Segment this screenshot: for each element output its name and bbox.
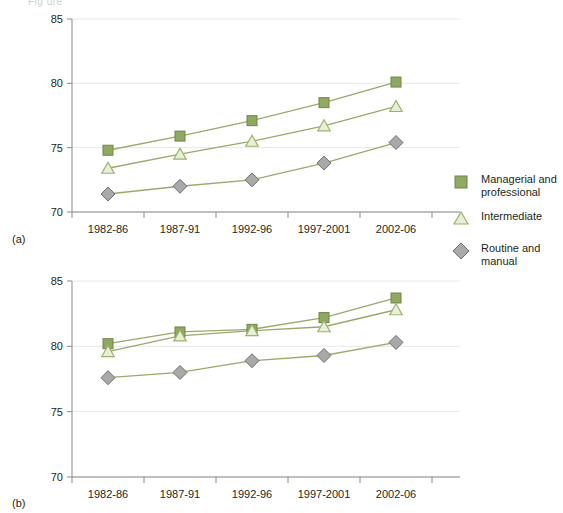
y-axis-tick-label: 80 [51, 340, 63, 352]
y-axis-tick-label: 80 [51, 77, 63, 89]
x-axis-tick-label: 1997-2001 [298, 488, 351, 500]
x-axis-tick-label: 1992-96 [232, 223, 272, 235]
diamond-marker-icon [245, 173, 259, 187]
y-axis-tick-label: 70 [51, 471, 63, 483]
square-marker-icon [103, 145, 113, 155]
triangle-marker-icon [390, 100, 402, 111]
square-marker-icon [391, 77, 401, 87]
chart-panel-a: 707580851982-861987-911992-961997-200120… [12, 13, 460, 245]
diamond-marker-icon [101, 371, 115, 385]
y-axis-tick-label: 75 [51, 142, 63, 154]
legend-label-line1: Routine and [481, 242, 540, 254]
y-axis-tick-label: 85 [51, 275, 63, 287]
square-marker-icon [175, 131, 185, 141]
y-axis-tick-label: 75 [51, 406, 63, 418]
clipped-header-text: Fig ure [28, 0, 63, 7]
legend-label-line2: manual [481, 255, 517, 267]
legend-item-managerial[interactable]: Managerial andprofessional [455, 173, 557, 198]
legend-item-routine[interactable]: Routine andmanual [453, 242, 540, 267]
square-marker-icon [319, 98, 329, 108]
triangle-marker-icon [454, 212, 468, 224]
y-axis-tick-label: 85 [51, 13, 63, 25]
diamond-marker-icon [317, 348, 331, 362]
x-axis-tick-label: 1982-86 [88, 223, 128, 235]
panel-label: (b) [12, 497, 25, 509]
x-axis-tick-label: 1987-91 [160, 223, 200, 235]
x-axis-tick-label: 1992-96 [232, 488, 272, 500]
x-axis-tick-label: 1982-86 [88, 488, 128, 500]
figure-container: Fig ure 707580851982-861987-911992-96199… [0, 0, 563, 513]
legend-label-line2: professional [481, 186, 540, 198]
x-axis-tick-label: 2002-06 [376, 488, 416, 500]
diamond-marker-icon [389, 335, 403, 349]
diamond-marker-icon [317, 156, 331, 170]
diamond-marker-icon [173, 179, 187, 193]
diamond-marker-icon [101, 187, 115, 201]
chart-panel-b: 707580851982-861987-911992-961997-200120… [12, 275, 460, 509]
square-marker-icon [391, 293, 401, 303]
triangle-marker-icon [390, 304, 402, 315]
series-line [108, 298, 396, 344]
diamond-marker-icon [173, 365, 187, 379]
square-marker-icon [455, 176, 467, 188]
chart-legend: Managerial andprofessionalIntermediateRo… [453, 173, 557, 267]
legend-item-intermediate[interactable]: Intermediate [454, 210, 542, 224]
square-marker-icon [247, 116, 257, 126]
legend-label-line1: Managerial and [481, 173, 557, 185]
y-axis-tick-label: 70 [51, 206, 63, 218]
legend-label-line1: Intermediate [481, 210, 542, 222]
x-axis-tick-label: 1997-2001 [298, 223, 351, 235]
panel-label: (a) [12, 233, 25, 245]
diamond-marker-icon [453, 243, 469, 259]
diamond-marker-icon [245, 354, 259, 368]
chart-canvas: 707580851982-861987-911992-961997-200120… [0, 0, 563, 513]
x-axis-tick-label: 2002-06 [376, 223, 416, 235]
x-axis-tick-label: 1987-91 [160, 488, 200, 500]
